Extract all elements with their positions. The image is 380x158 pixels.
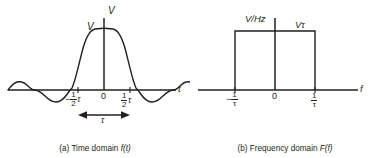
- frequency-origin-label: 0: [272, 92, 277, 101]
- tau-symbol: τ: [127, 96, 131, 105]
- frequency-domain-plot: [190, 0, 380, 140]
- frequency-horizontal-axis-label: f: [360, 84, 363, 94]
- caption-b-function: F(f): [320, 144, 333, 153]
- time-origin-label: 0: [101, 92, 106, 101]
- time-horizontal-axis-label: t: [178, 84, 181, 94]
- frequency-domain-caption: (b) Frequency domain F(f): [190, 144, 380, 153]
- time-tick-label-positive: 1 2 τ: [121, 91, 131, 109]
- tau-symbol: τ: [77, 95, 81, 104]
- frequency-tick-label-positive: 1 τ: [311, 91, 317, 109]
- time-domain-panel: V V t 0 − 1 2 τ 1 2 τ: [0, 0, 190, 158]
- frequency-tick-label-negative: − 1 τ: [226, 91, 238, 108]
- fraction-one-half: 1 2: [70, 91, 76, 108]
- fraction-one-over-tau: 1 τ: [231, 91, 237, 108]
- time-domain-caption: (a) Time domain f(t): [0, 144, 190, 153]
- time-vertical-axis-label: V: [108, 6, 115, 16]
- time-tick-label-negative: − 1 2 τ: [65, 91, 80, 108]
- spectrum-amplitude-label: Vτ: [295, 20, 305, 30]
- fraction-one-half: 1 2: [121, 92, 127, 109]
- frequency-vertical-axis-label: V/Hz: [245, 14, 266, 24]
- fraction-one-over-tau: 1 τ: [311, 92, 317, 109]
- pulse-width-tau-label: τ: [101, 116, 104, 125]
- sinc-curve: [8, 28, 190, 102]
- frequency-domain-panel: V/Hz Vτ f 0 − 1 τ 1 τ: [190, 0, 380, 158]
- time-domain-plot: [0, 0, 190, 140]
- caption-b-prefix: (b) Frequency domain: [237, 144, 319, 153]
- time-peak-amplitude-label: V: [87, 22, 94, 32]
- fourier-transform-pair-figure: V V t 0 − 1 2 τ 1 2 τ: [0, 0, 380, 158]
- caption-a-function: f(t): [121, 144, 131, 153]
- caption-a-prefix: (a) Time domain: [59, 144, 120, 153]
